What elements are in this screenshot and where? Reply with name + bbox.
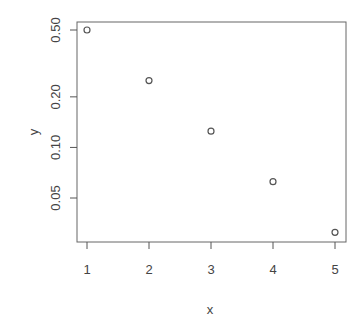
x-axis: 12345 [83,242,338,277]
x-tick-label: 2 [145,262,152,277]
x-tick-label: 4 [269,262,276,277]
x-tick-label: 5 [331,262,338,277]
scatter-plot: 12345 0.050.100.200.50 x y [0,0,361,330]
x-tick-label: 1 [83,262,90,277]
data-point [270,179,276,185]
data-point [208,128,214,134]
x-tick-label: 3 [207,262,214,277]
y-tick-label: 0.05 [48,185,63,210]
plot-frame [77,22,346,242]
data-points [84,27,338,235]
y-tick-label: 0.20 [48,84,63,109]
data-point [146,78,152,84]
y-tick-label: 0.50 [48,17,63,42]
data-point [332,229,338,235]
y-tick-label: 0.10 [48,135,63,160]
y-axis: 0.050.100.200.50 [48,17,77,210]
y-axis-label: y [26,128,41,135]
data-point [84,27,90,33]
x-axis-label: x [207,302,214,317]
